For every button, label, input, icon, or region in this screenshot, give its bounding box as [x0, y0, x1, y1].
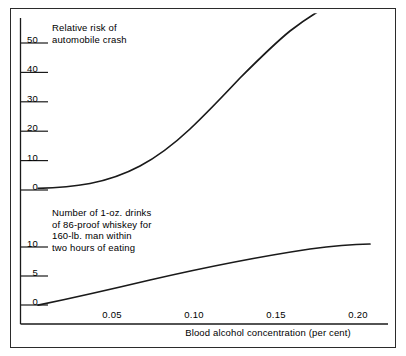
upper-y-tick-label-50: 50 — [22, 35, 38, 45]
lower-y-tick-label-0: 0 — [22, 297, 38, 307]
drinks-annotation-line1: Number of 1-oz. drinks — [52, 207, 151, 219]
lower-y-tick-label-5: 5 — [22, 268, 38, 278]
relative-risk-annotation-line1: Relative risk of — [52, 22, 117, 34]
drinks-annotation-line4: two hours of eating — [52, 242, 135, 254]
drinks-annotation-line3: 160-lb. man within — [52, 230, 132, 242]
drinks-annotation-line2: of 86-proof whiskey for — [52, 219, 152, 231]
x-tick-label-010: 0.10 — [174, 310, 214, 320]
upper-y-tick-label-20: 20 — [22, 123, 38, 133]
x-tick-label-015: 0.15 — [256, 310, 296, 320]
x-tick-label-005: 0.05 — [92, 310, 132, 320]
relative-risk-annotation-line2: automobile crash — [52, 34, 127, 46]
upper-y-tick-label-40: 40 — [22, 64, 38, 74]
upper-y-tick-label-10: 10 — [22, 153, 38, 163]
upper-y-tick-label-0: 0 — [22, 182, 38, 192]
chart-plot-area — [0, 0, 406, 356]
x-axis-title: Blood alcohol concentration (per cent) — [148, 327, 388, 338]
chart-figure: 50 40 30 20 10 0 10 5 0 Relative risk of… — [0, 0, 406, 356]
upper-y-tick-label-30: 30 — [22, 94, 38, 104]
x-tick-label-020: 0.20 — [338, 310, 378, 320]
lower-y-tick-label-10: 10 — [22, 239, 38, 249]
